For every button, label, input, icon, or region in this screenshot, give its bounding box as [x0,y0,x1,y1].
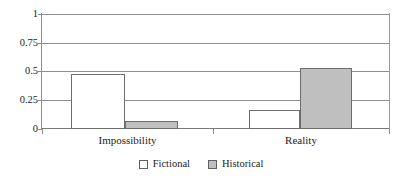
legend-label-historical: Historical [222,159,263,170]
gridline-0.75 [42,43,389,44]
white-square-swatch-icon [139,160,148,169]
gridline-1 [42,14,389,15]
y-tick-label-0.25: 0.25 [20,95,38,106]
legend-label-fictional: Fictional [153,159,190,170]
plot-area [42,14,389,129]
x-category-label-reality: Reality [213,134,389,146]
bar-impossibility-fictional [71,74,125,129]
chart-legend: Fictional Historical [0,159,402,170]
bar-reality-fictional [249,110,300,129]
legend-entry-historical: Historical [208,159,263,170]
bar-reality-historical [300,68,352,129]
y-tick-label-0.75: 0.75 [20,38,38,49]
bar-chart: 1 0.75 0.5 0.25 0 Impossibility Reality … [0,0,402,183]
y-tick-label-0.5: 0.5 [25,66,38,77]
gray-square-swatch-icon [208,160,217,169]
x-category-label-impossibility: Impossibility [42,134,213,146]
plot-right-border [389,13,390,130]
legend-entry-fictional: Fictional [139,159,190,170]
x-tick-mark-right [389,129,390,134]
bar-impossibility-historical [125,121,178,129]
